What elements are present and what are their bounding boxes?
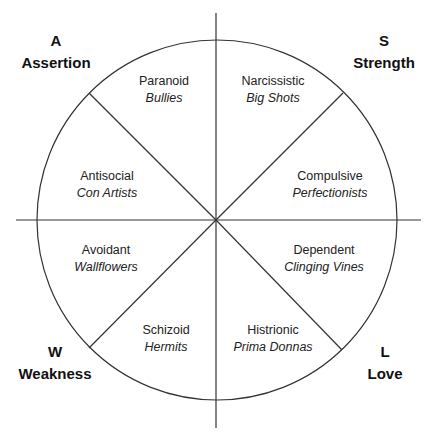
disorder-name: Antisocial: [77, 168, 138, 185]
disorder-name: Narcissistic: [241, 73, 304, 90]
corner-love: L Love: [367, 341, 402, 385]
disorder-name: Avoidant: [74, 242, 138, 259]
nickname: Con Artists: [77, 185, 138, 202]
segment-schizoid: Schizoid Hermits: [142, 322, 189, 355]
nickname: Hermits: [142, 339, 189, 356]
segment-antisocial: Antisocial Con Artists: [77, 168, 138, 201]
segment-avoidant: Avoidant Wallflowers: [74, 242, 138, 275]
nickname: Wallflowers: [74, 259, 138, 276]
segment-paranoid: Paranoid Bullies: [139, 73, 189, 106]
corner-weakness: W Weakness: [18, 341, 91, 385]
nickname: Clinging Vines: [284, 259, 364, 276]
corner-letter: W: [18, 341, 91, 363]
nickname: Prima Donnas: [233, 339, 312, 356]
corner-letter: A: [21, 30, 90, 52]
corner-word: Weakness: [18, 363, 91, 385]
disorder-name: Paranoid: [139, 73, 189, 90]
corner-word: Strength: [353, 52, 415, 74]
segment-compulsive: Compulsive Perfectionists: [292, 168, 367, 201]
corner-word: Assertion: [21, 52, 90, 74]
nickname: Perfectionists: [292, 185, 367, 202]
disorder-name: Histrionic: [233, 322, 312, 339]
personality-wheel-diagram: A Assertion S Strength W Weakness L Love…: [0, 0, 433, 441]
nickname: Bullies: [139, 90, 189, 107]
disorder-name: Schizoid: [142, 322, 189, 339]
disorder-name: Compulsive: [292, 168, 367, 185]
segment-histrionic: Histrionic Prima Donnas: [233, 322, 312, 355]
nickname: Big Shots: [241, 90, 304, 107]
corner-letter: S: [353, 30, 415, 52]
segment-dependent: Dependent Clinging Vines: [284, 242, 364, 275]
corner-assertion: A Assertion: [21, 30, 90, 74]
segment-narcissistic: Narcissistic Big Shots: [241, 73, 304, 106]
disorder-name: Dependent: [284, 242, 364, 259]
corner-letter: L: [367, 341, 402, 363]
corner-strength: S Strength: [353, 30, 415, 74]
corner-word: Love: [367, 363, 402, 385]
